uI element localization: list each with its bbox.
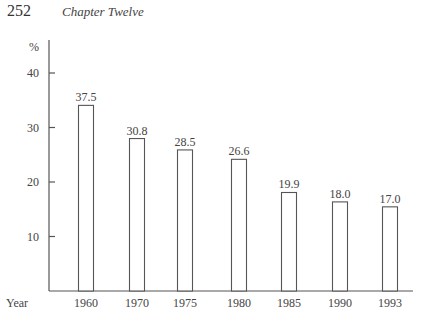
x-tick-label: 1985 [277,296,301,310]
bar-value-label: 17.0 [380,192,401,206]
x-tick-label: 1980 [227,296,251,310]
bar-1980 [232,159,247,291]
bar-1975 [178,150,193,291]
bar-value-label: 26.6 [229,144,250,158]
x-axis-label: Year [6,296,28,310]
bar-1970 [130,139,145,291]
y-tick-label: 20 [27,175,39,189]
y-tick-label: 10 [27,230,39,244]
x-tick-label: 1990 [328,296,352,310]
bar-value-label: 18.0 [330,187,351,201]
x-tick-label: 1993 [378,296,402,310]
y-tick-label: 30 [27,121,39,135]
x-tick-label: 1960 [74,296,98,310]
bar-1960 [79,105,94,291]
bar-chart: % Year 10203040 37.530.828.526.619.918.0… [0,0,422,324]
bar-value-label: 37.5 [76,90,97,104]
bar-1985 [282,192,297,291]
axes: % Year [6,40,413,310]
bar-1990 [333,202,348,291]
x-tick-label: 1970 [125,296,149,310]
y-tick-label: 40 [27,66,39,80]
x-tick-label: 1975 [173,296,197,310]
bar-value-label: 19.9 [279,177,300,191]
y-axis-unit-label: % [29,40,39,54]
bar-value-label: 28.5 [175,135,196,149]
category-labels: 1960197019751980198519901993 [74,296,402,310]
y-ticks: 10203040 [27,66,55,244]
bar-1993 [383,207,398,291]
bar-value-label: 30.8 [127,124,148,138]
